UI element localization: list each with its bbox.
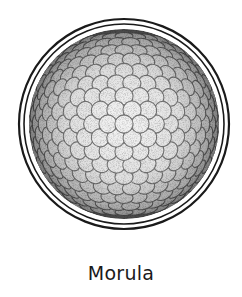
figure-caption: Morula [0, 262, 242, 284]
morula-drawing [0, 0, 242, 245]
blastomere-cells [28, 29, 222, 219]
morula-illustration [0, 0, 242, 245]
